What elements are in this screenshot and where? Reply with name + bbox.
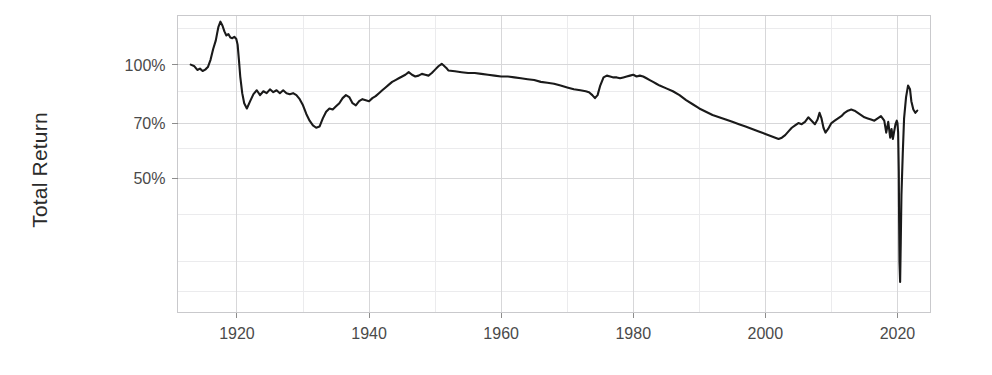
y-tick-label: 70% (133, 115, 165, 132)
grid-major-group (178, 16, 931, 313)
tick-marks-group (172, 65, 898, 318)
grid-minor-group (178, 16, 931, 313)
x-tick-label: 1980 (615, 325, 651, 342)
y-tick-labels-group: 100%70%50% (125, 57, 166, 187)
series-line-total-return (191, 22, 918, 282)
x-tick-labels-group: 192019401960198020002020 (219, 325, 915, 342)
x-tick-label: 2000 (748, 325, 784, 342)
y-tick-label: 50% (133, 170, 165, 187)
x-tick-label: 1920 (219, 325, 255, 342)
x-tick-label: 1940 (351, 325, 387, 342)
y-axis-title: Total Return (28, 112, 51, 228)
chart-container: 100%70%50% 192019401960198020002020 Tota… (0, 0, 992, 375)
x-tick-label: 1960 (483, 325, 519, 342)
x-tick-label: 2020 (880, 325, 916, 342)
y-tick-label: 100% (125, 57, 166, 74)
plot-panel-border (178, 16, 931, 313)
line-chart: 100%70%50% 192019401960198020002020 Tota… (0, 0, 992, 375)
